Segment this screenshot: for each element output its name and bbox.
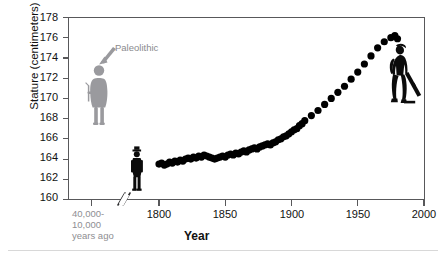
data-point-series (155, 32, 401, 169)
data-point (321, 101, 328, 108)
data-point (361, 60, 368, 67)
data-point (301, 117, 308, 124)
stature-over-time-chart: Stature (centimeters) 178 176 174 172 17… (0, 0, 446, 262)
axis-frame (69, 18, 425, 200)
data-point (328, 95, 335, 102)
data-point (354, 69, 361, 76)
paleolithic-arrow-icon (99, 47, 116, 65)
plot-area (0, 0, 446, 262)
data-point (334, 89, 341, 96)
data-point (381, 38, 388, 45)
data-point (394, 35, 401, 42)
bottom-divider (8, 250, 438, 251)
x-tick-marks (92, 200, 425, 206)
data-point (374, 44, 381, 51)
data-point (308, 112, 315, 119)
paleolithic-human-silhouette (85, 65, 107, 125)
data-point (367, 52, 374, 59)
nineteenth-century-human-silhouette (131, 146, 143, 190)
data-point (348, 76, 355, 83)
data-point (341, 83, 348, 90)
y-tick-marks (63, 18, 69, 200)
data-point (314, 107, 321, 114)
modern-skateboarder-silhouette (390, 44, 421, 104)
